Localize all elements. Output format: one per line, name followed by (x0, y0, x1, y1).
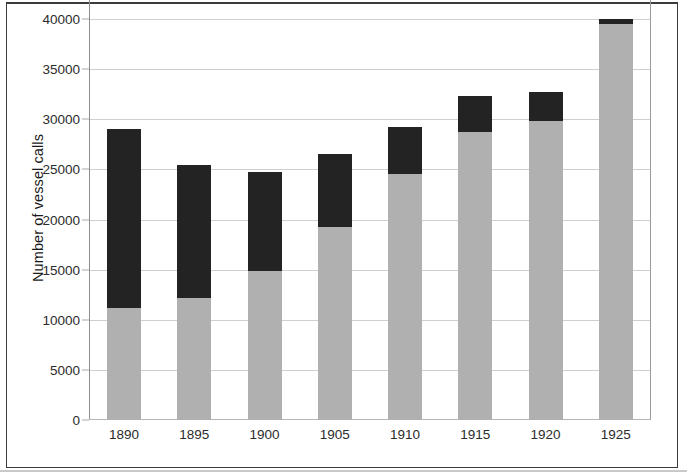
x-axis-tick-labels: 18901895190019051910191519201925 (89, 427, 651, 451)
bar-segment-upper-segment[interactable] (388, 127, 422, 174)
bar-segment-lower-segment[interactable] (177, 298, 211, 420)
y-axis-tick-mark (82, 19, 89, 20)
plot-wrapper: Number of vessel calls 05000100001500020… (0, 0, 687, 474)
bar-segment-upper-segment[interactable] (458, 96, 492, 132)
x-axis-tick-label: 1910 (370, 427, 440, 442)
bar-segment-lower-segment[interactable] (458, 132, 492, 420)
y-axis-tick-label: 0 (28, 413, 80, 428)
y-axis-tick-label: 10000 (28, 312, 80, 327)
y-axis-tick-label: 15000 (28, 262, 80, 277)
y-axis-tick-mark (82, 420, 89, 421)
bar-segment-upper-segment[interactable] (318, 154, 352, 226)
bar-segment-upper-segment[interactable] (599, 19, 633, 24)
x-axis-tick-label: 1905 (300, 427, 370, 442)
x-axis-tick-label: 1925 (581, 427, 651, 442)
bar-group[interactable] (529, 92, 563, 420)
bar-group[interactable] (177, 165, 211, 420)
y-axis-tick-label: 30000 (28, 112, 80, 127)
y-axis-tick-mark (82, 269, 89, 270)
bar-group[interactable] (248, 172, 282, 420)
bar-segment-upper-segment[interactable] (107, 129, 141, 307)
bar-segment-upper-segment[interactable] (248, 172, 282, 270)
bar-group[interactable] (599, 19, 633, 420)
x-axis-tick-label: 1900 (230, 427, 300, 442)
y-axis-tick-label: 20000 (28, 212, 80, 227)
chart-figure: Number of vessel calls 05000100001500020… (0, 0, 687, 474)
x-axis-tick-label: 1920 (511, 427, 581, 442)
bar-group[interactable] (458, 96, 492, 420)
y-axis-tick-label: 40000 (28, 12, 80, 27)
bar-segment-lower-segment[interactable] (318, 227, 352, 420)
plot-area (89, 19, 651, 420)
y-axis-tick-mark (82, 369, 89, 370)
bars-layer (89, 19, 651, 420)
bar-segment-lower-segment[interactable] (599, 24, 633, 420)
y-axis-tick-mark (82, 119, 89, 120)
x-axis-tick-label: 1895 (159, 427, 229, 442)
y-axis-tick-label: 25000 (28, 162, 80, 177)
bar-segment-upper-segment[interactable] (177, 165, 211, 297)
bar-group[interactable] (318, 154, 352, 420)
bar-segment-upper-segment[interactable] (529, 92, 563, 121)
bar-group[interactable] (388, 127, 422, 420)
bar-segment-lower-segment[interactable] (388, 174, 422, 420)
y-axis-tick-mark (82, 169, 89, 170)
bar-segment-lower-segment[interactable] (248, 271, 282, 420)
y-axis-tick-mark (82, 319, 89, 320)
y-axis-tick-mark (82, 219, 89, 220)
x-axis-tick-label: 1890 (89, 427, 159, 442)
bar-segment-lower-segment[interactable] (107, 308, 141, 420)
bar-segment-lower-segment[interactable] (529, 121, 563, 420)
y-axis-tick-label: 5000 (28, 362, 80, 377)
y-axis-tick-label: 35000 (28, 62, 80, 77)
x-axis-tick-label: 1915 (440, 427, 510, 442)
y-axis-tick-labels: 0500010000150002000025000300003500040000 (28, 0, 80, 474)
y-axis-tick-mark (82, 69, 89, 70)
bar-group[interactable] (107, 129, 141, 420)
